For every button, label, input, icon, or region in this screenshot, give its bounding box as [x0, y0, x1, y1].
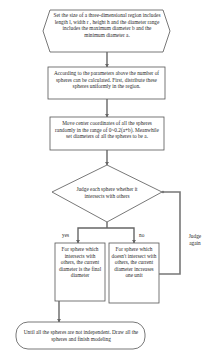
start-text: Set the size of a three-dimensional regi…	[52, 12, 162, 38]
calc-text: According to the parameters above the nu…	[50, 70, 163, 90]
connector-no	[107, 228, 134, 243]
judge-text: Judge each sphere whether it intersects …	[70, 186, 144, 199]
arrow-head-icon	[105, 162, 109, 165]
end-text: Until all the spheres are not independen…	[19, 329, 143, 342]
arrow-head-icon	[105, 64, 109, 67]
arrow-head-icon	[57, 319, 61, 322]
loop-endpoint-dot	[162, 191, 164, 193]
arrow-head-icon	[76, 240, 80, 243]
no-label: no	[139, 232, 144, 239]
flowchart-canvas	[0, 0, 211, 359]
yes-label: yes	[62, 232, 69, 239]
move-text: Move center coordinates of all the spher…	[52, 120, 162, 140]
connector-yes	[78, 228, 107, 243]
arrow-head-icon	[132, 240, 136, 243]
arrow-head-icon	[105, 114, 109, 117]
no-box-text: For sphere which doesn't intersect with …	[111, 246, 157, 279]
yes-box-text: For sphere which intersects with others,…	[57, 246, 103, 279]
connector-judge-again	[159, 192, 180, 274]
judge-again-label: Judge again	[184, 233, 206, 246]
